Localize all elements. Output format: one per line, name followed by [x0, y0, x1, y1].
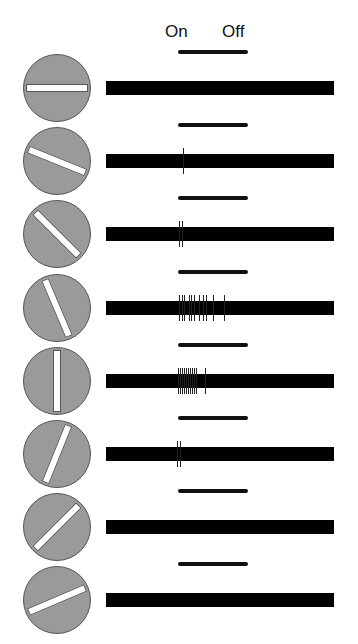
response-trace [106, 447, 334, 461]
action-potential-spike [186, 368, 187, 394]
action-potential-spike [178, 368, 179, 394]
action-potential-spike [203, 295, 204, 321]
stimulus-period-marker [178, 416, 248, 420]
action-potential-spike [177, 441, 178, 467]
light-bar-stimulus [32, 502, 81, 551]
light-bar-stimulus [53, 350, 61, 412]
action-potential-spike [179, 221, 180, 247]
stimulus-period-marker [178, 562, 248, 566]
action-potential-spike [183, 148, 184, 174]
response-trace [106, 227, 334, 241]
action-potential-spike [191, 295, 192, 321]
response-trace [106, 301, 334, 315]
action-potential-spike [180, 441, 181, 467]
receptive-field-stimulus [23, 347, 91, 415]
response-trace [106, 520, 334, 534]
action-potential-spike [179, 295, 180, 321]
action-potential-spike [194, 368, 195, 394]
stimulus-period-marker [178, 50, 248, 54]
action-potential-spike [213, 295, 214, 321]
response-trace [106, 374, 334, 388]
stimulus-period-marker [178, 123, 248, 127]
action-potential-spike [206, 295, 207, 321]
action-potential-spike [182, 368, 183, 394]
light-bar-stimulus [41, 277, 73, 337]
light-bar-stimulus [26, 84, 88, 92]
action-potential-spike [190, 368, 191, 394]
light-bar-stimulus [27, 146, 87, 177]
action-potential-spike [194, 295, 195, 321]
action-potential-spike [184, 295, 185, 321]
action-potential-spike [199, 295, 200, 321]
light-bar-stimulus [42, 424, 73, 484]
action-potential-spike [182, 221, 183, 247]
action-potential-spike [205, 368, 206, 394]
receptive-field-stimulus [23, 274, 91, 342]
action-potential-spike [184, 368, 185, 394]
action-potential-spike [192, 368, 193, 394]
action-potential-spike [196, 368, 197, 394]
receptive-field-stimulus [23, 420, 91, 488]
off-label: Off [222, 22, 244, 42]
on-label: On [165, 22, 188, 42]
stimulus-period-marker [178, 489, 248, 493]
stimulus-period-marker [178, 196, 248, 200]
action-potential-spike [188, 368, 189, 394]
receptive-field-stimulus [23, 54, 91, 122]
receptive-field-stimulus [23, 566, 91, 634]
receptive-field-stimulus [23, 127, 91, 195]
action-potential-spike [224, 295, 225, 321]
stimulus-period-marker [178, 343, 248, 347]
action-potential-spike [189, 295, 190, 321]
action-potential-spike [182, 295, 183, 321]
response-trace [106, 81, 334, 95]
action-potential-spike [180, 368, 181, 394]
stimulus-period-marker [178, 270, 248, 274]
response-trace [106, 154, 334, 168]
response-trace [106, 593, 334, 607]
light-bar-stimulus [27, 585, 87, 617]
receptive-field-stimulus [23, 493, 91, 561]
receptive-field-stimulus [23, 200, 91, 268]
light-bar-stimulus [32, 210, 81, 259]
